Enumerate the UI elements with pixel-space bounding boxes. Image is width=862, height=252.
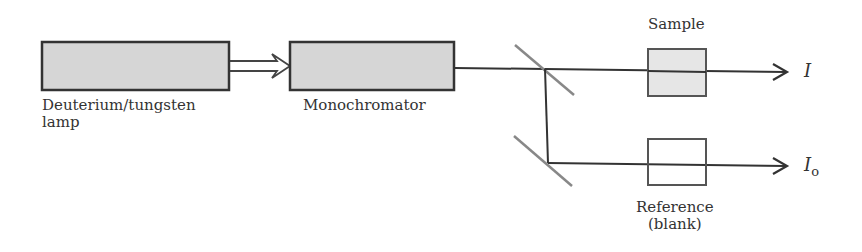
- monochromator-label: Monochromator: [303, 97, 426, 114]
- lamp-box: [42, 42, 229, 90]
- sample-label: Sample: [648, 16, 705, 33]
- lamp-label: Deuterium/tungsten lamp: [42, 97, 196, 131]
- beam-vertical: [545, 69, 548, 163]
- hollow-arrow: [230, 54, 290, 78]
- reference-cell: [648, 139, 706, 185]
- intensity-sample-label: I: [804, 62, 811, 79]
- reference-label: Reference (blank): [636, 199, 714, 233]
- beam-reference: [548, 163, 785, 166]
- intensity-reference-label: Io: [804, 156, 819, 180]
- mirror-lower: [514, 136, 572, 186]
- beam-main: [455, 68, 545, 69]
- monochromator-box: [290, 42, 454, 90]
